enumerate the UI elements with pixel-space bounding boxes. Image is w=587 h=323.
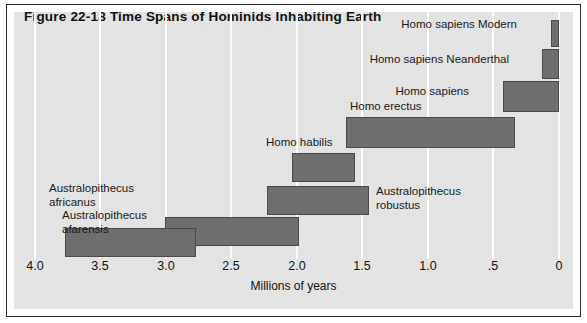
x-tick-2-5: 2.5	[222, 259, 239, 273]
x-tick-1-5: 1.5	[353, 259, 370, 273]
bar-label-australopithecus-robustus: Australopithecus robustus	[376, 185, 461, 212]
x-axis-title: Millions of years	[14, 279, 573, 293]
bar-label-australopithecus-afarensis-visible: Australopithecus afarensis	[62, 209, 147, 236]
x-tick-1-0: 1.0	[419, 259, 436, 273]
x-axis: 4.0 3.5 3.0 2.5 2.0 1.5 1.0 .5 0 Million…	[14, 259, 573, 309]
x-tick-3-0: 3.0	[157, 259, 174, 273]
x-tick-0-5: .5	[488, 259, 498, 273]
bar-homo-sapiens-modern[interactable]	[551, 20, 559, 47]
x-tick-2-0: 2.0	[288, 259, 305, 273]
bar-label-line2: africanus	[49, 196, 134, 210]
bar-label-line1: Australopithecus	[62, 209, 147, 223]
x-tick-0: 0	[556, 259, 563, 273]
bar-label-homo-sapiens: Homo sapiens	[395, 85, 469, 98]
bar-homo-sapiens[interactable]	[503, 81, 559, 112]
bar-homo-habilis[interactable]	[292, 153, 355, 182]
bar-label-homo-erectus: Homo erectus	[350, 100, 422, 113]
gridline-4-0	[34, 12, 36, 259]
bar-label-line1: Australopithecus	[376, 185, 461, 199]
x-tick-3-5: 3.5	[91, 259, 108, 273]
bar-label-line2: robustus	[376, 199, 461, 213]
bar-label-homo-habilis: Homo habilis	[266, 136, 332, 149]
bar-label-homo-sapiens-neanderthal: Homo sapiens Neanderthal	[370, 53, 509, 66]
bar-label-line2: afarensis	[62, 223, 147, 237]
bar-label-australopithecus-africanus: Australopithecus africanus	[49, 182, 134, 209]
bar-label-line1: Australopithecus	[49, 182, 134, 196]
bar-australopithecus-robustus[interactable]	[267, 186, 369, 215]
bar-label-homo-sapiens-modern: Homo sapiens Modern	[401, 18, 517, 31]
bar-homo-sapiens-neanderthal[interactable]	[542, 49, 559, 79]
x-tick-4-0: 4.0	[26, 259, 43, 273]
bar-homo-erectus[interactable]	[346, 117, 515, 148]
figure-container: Figure 22-18 Time Spans of Hominids Inha…	[0, 0, 587, 323]
